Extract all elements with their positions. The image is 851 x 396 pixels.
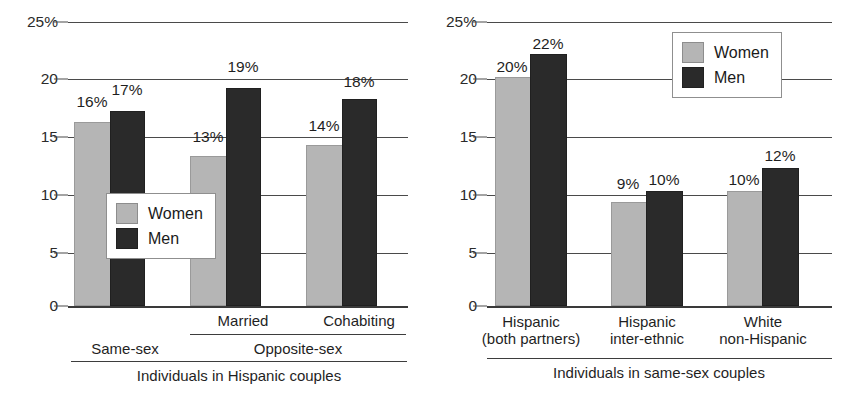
value-label-cohabiting-women: 14%	[308, 117, 339, 135]
legend-right-chart: Women Men	[672, 32, 782, 98]
legend-swatch-men-icon	[116, 228, 138, 249]
category-label-hispanic-interethnic-line2: inter-ethnic	[610, 330, 684, 347]
y-tick-label-15: 15	[6, 128, 58, 146]
category-label-white-nonhispanic: White non-Hispanic	[719, 313, 807, 348]
bar-group-container: 16% 17% 13% 19% 14% 18%	[68, 16, 408, 306]
y-tick-label-25: 25%	[425, 13, 477, 31]
y-tick-mark-25	[473, 22, 487, 23]
y-tick-mark-0	[54, 306, 68, 307]
legend-swatch-men-icon	[682, 67, 704, 88]
legend-left-chart: Women Men	[106, 193, 216, 259]
category-label-hispanic-both: Hispanic (both partners)	[482, 313, 580, 348]
legend-label-women: Women	[714, 45, 769, 61]
y-tick-label-10: 10	[425, 186, 477, 204]
legend-label-men: Men	[148, 231, 179, 247]
legend-item-women[interactable]: Women	[682, 40, 769, 65]
gridline-0	[487, 306, 832, 308]
legend-label-men: Men	[714, 70, 745, 86]
plot-area: 16% 17% 13% 19% 14% 18% Women	[68, 16, 408, 306]
category-label-married: Married	[218, 313, 269, 330]
group-label-same-sex: Same-sex	[91, 340, 159, 357]
bar-hispanic-both-women[interactable]	[495, 77, 532, 306]
y-tick-mark-0	[473, 306, 487, 307]
value-label-samesex-men: 17%	[111, 81, 142, 99]
legend-item-men[interactable]: Men	[116, 226, 203, 251]
category-label-hispanic-interethnic-line1: Hispanic	[610, 313, 684, 330]
category-label-hispanic-both-line2: (both partners)	[482, 330, 580, 347]
y-tick-mark-20	[473, 79, 487, 80]
bar-cohabiting-women[interactable]	[306, 145, 344, 306]
chart-panel-same-sex-couples: 25% 20 15 10 5 0 20% 22%	[425, 0, 851, 396]
y-tick-label-0: 0	[425, 297, 477, 315]
legend-label-women: Women	[148, 206, 203, 222]
category-label-hispanic-interethnic: Hispanic inter-ethnic	[610, 313, 684, 348]
bracket-same-sex-couples	[487, 358, 832, 359]
gridline-0	[68, 306, 408, 308]
chart-panel-hispanic-couples: 25% 20 15 10 5 0 16% 17%	[0, 0, 426, 396]
y-tick-label-5: 5	[425, 244, 477, 262]
value-label-white-nonhispanic-men: 12%	[764, 147, 795, 165]
bracket-hispanic-couples	[71, 361, 407, 362]
value-label-hispanic-both-men: 22%	[532, 35, 563, 53]
value-label-hispanic-both-women: 20%	[496, 58, 527, 76]
y-tick-label-10: 10	[6, 186, 58, 204]
bar-cohabiting-men[interactable]	[342, 99, 377, 306]
value-label-cohabiting-men: 18%	[343, 73, 374, 91]
group-label-opposite-sex: Opposite-sex	[254, 340, 342, 357]
category-label-cohabiting: Cohabiting	[323, 313, 395, 330]
value-label-married-men: 19%	[227, 58, 258, 76]
bar-white-nonhispanic-men[interactable]	[762, 168, 799, 306]
y-tick-mark-10	[473, 195, 487, 196]
legend-swatch-women-icon	[682, 42, 704, 63]
bar-hispanic-interethnic-men[interactable]	[646, 191, 683, 306]
legend-item-men[interactable]: Men	[682, 65, 769, 90]
y-tick-mark-5	[54, 253, 68, 254]
figure-two-bar-charts: 25% 20 15 10 5 0 16% 17%	[0, 0, 851, 396]
y-tick-label-15: 15	[425, 128, 477, 146]
y-tick-label-20: 20	[425, 70, 477, 88]
category-label-white-nonhispanic-line2: non-Hispanic	[719, 330, 807, 347]
value-label-hispanic-interethnic-women: 9%	[617, 175, 639, 193]
value-label-white-nonhispanic-women: 10%	[728, 171, 759, 189]
category-label-hispanic-both-line1: Hispanic	[482, 313, 580, 330]
value-label-samesex-women: 16%	[76, 93, 107, 111]
group-label-hispanic-couples: Individuals in Hispanic couples	[137, 367, 341, 384]
bracket-opposite-sex	[190, 334, 406, 335]
y-tick-label-0: 0	[6, 297, 58, 315]
group-label-same-sex-couples: Individuals in same-sex couples	[553, 364, 765, 381]
y-tick-mark-25	[54, 22, 68, 23]
legend-swatch-women-icon	[116, 203, 138, 224]
bar-hispanic-interethnic-women[interactable]	[611, 202, 648, 306]
bar-white-nonhispanic-women[interactable]	[727, 191, 764, 306]
value-label-married-women: 13%	[192, 128, 223, 146]
y-tick-mark-15	[473, 137, 487, 138]
legend-item-women[interactable]: Women	[116, 201, 203, 226]
plot-area: 20% 22% 9% 10% 10% 12% Women	[487, 16, 832, 306]
y-tick-label-25: 25%	[6, 13, 58, 31]
y-tick-mark-10	[54, 195, 68, 196]
y-tick-mark-15	[54, 137, 68, 138]
value-label-hispanic-interethnic-men: 10%	[648, 171, 679, 189]
bar-hispanic-both-men[interactable]	[530, 54, 567, 306]
y-tick-label-5: 5	[6, 244, 58, 262]
y-tick-mark-5	[473, 253, 487, 254]
category-label-white-nonhispanic-line1: White	[719, 313, 807, 330]
bar-married-men[interactable]	[226, 88, 261, 306]
y-tick-mark-20	[54, 79, 68, 80]
y-tick-label-20: 20	[6, 70, 58, 88]
